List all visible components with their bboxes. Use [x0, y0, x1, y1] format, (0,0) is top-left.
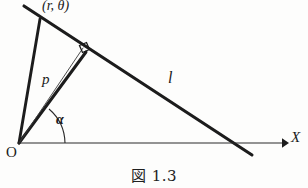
label-line-l: l	[168, 70, 172, 86]
label-perpendicular-distance: p	[42, 72, 50, 87]
ray-to-foot-segment	[19, 52, 86, 143]
line-l	[24, 6, 252, 155]
label-polar-point: (r, θ)	[42, 0, 69, 13]
geometry-diagram	[0, 0, 308, 188]
label-angle-alpha: α	[56, 113, 64, 127]
label-x-axis: X	[291, 130, 300, 145]
figure-container: (r, θ) p α l O X 図 1.3	[0, 0, 308, 188]
figure-caption: 図 1.3	[0, 164, 308, 185]
radius-vector-segment	[19, 19, 40, 143]
x-axis-arrow-icon	[282, 138, 289, 148]
label-origin: O	[6, 145, 17, 160]
perpendicular-p-segment	[19, 48, 83, 143]
